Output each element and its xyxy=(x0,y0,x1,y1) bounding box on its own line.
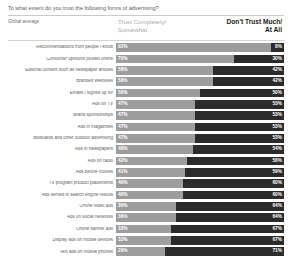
stacked-bar: 40%60% xyxy=(116,191,284,200)
stacked-bar: 50%50% xyxy=(116,89,284,98)
bar-segment-distrust: 53% xyxy=(195,134,284,143)
bar-segment-distrust: 53% xyxy=(195,111,284,120)
stacked-bar: 33%67% xyxy=(116,236,284,245)
bar-value-distrust: 50% xyxy=(272,91,282,96)
table-row: Online banner ads33%67% xyxy=(8,223,284,234)
row-label: Ads on social networks xyxy=(8,215,116,220)
table-row: Online video ads36%64% xyxy=(8,201,284,212)
bar-value-distrust: 60% xyxy=(272,193,282,198)
bar-value-distrust: 53% xyxy=(272,125,282,130)
table-row: Ads on TV47%53% xyxy=(8,99,284,110)
bar-segment-trust: 70% xyxy=(116,55,234,64)
bar-value-trust: 40% xyxy=(118,181,128,186)
stacked-bar: 47%53% xyxy=(116,123,284,132)
bar-value-distrust: 53% xyxy=(272,136,282,141)
bar-value-trust: 70% xyxy=(118,57,128,62)
stacked-bar: 58%42% xyxy=(116,77,284,86)
bar-segment-distrust: 53% xyxy=(195,123,284,132)
bar-value-distrust: 59% xyxy=(272,170,282,175)
table-row: Display ads on mobile devices33%67% xyxy=(8,235,284,246)
row-label: Emails I signed up for xyxy=(8,91,116,96)
bar-segment-trust: 92% xyxy=(116,43,271,52)
bar-segment-trust: 36% xyxy=(116,202,176,211)
subtitle: Global average xyxy=(8,20,39,25)
stacked-bar: 41%59% xyxy=(116,168,284,177)
bar-segment-trust: 40% xyxy=(116,179,183,188)
row-label: Branded Websites xyxy=(8,79,116,84)
bar-value-distrust: 54% xyxy=(272,147,282,152)
stacked-bar: 42%58% xyxy=(116,157,284,166)
bar-value-distrust: 58% xyxy=(272,159,282,164)
stacked-bar: 33%67% xyxy=(116,225,284,234)
trust-in-advertising-chart: To what extent do you trust the followin… xyxy=(0,0,292,256)
bar-value-distrust: 60% xyxy=(272,181,282,186)
stacked-bar: 70%30% xyxy=(116,55,284,64)
stacked-bar: 47%53% xyxy=(116,134,284,143)
table-row: Ads on radio42%58% xyxy=(8,155,284,166)
row-label: Text ads on mobile phones xyxy=(8,250,116,255)
table-row: Ads in newspapers46%54% xyxy=(8,144,284,155)
bar-value-distrust: 42% xyxy=(272,79,282,84)
bar-segment-distrust: 59% xyxy=(185,168,284,177)
bar-segment-trust: 41% xyxy=(116,168,185,177)
bar-segment-distrust: 67% xyxy=(171,225,284,234)
stacked-bar: 40%60% xyxy=(116,179,284,188)
bar-rows: Recommendations from people I know92%8%C… xyxy=(8,42,284,256)
stacked-bar: 36%64% xyxy=(116,202,284,211)
table-row: Branded Websites58%42% xyxy=(8,76,284,87)
bar-segment-trust: 33% xyxy=(116,225,171,234)
bar-value-trust: 47% xyxy=(118,125,128,130)
bar-segment-trust: 42% xyxy=(116,157,187,166)
table-row: Ads on social networks36%64% xyxy=(8,212,284,223)
bar-value-distrust: 53% xyxy=(272,102,282,107)
bar-segment-trust: 58% xyxy=(116,66,213,75)
bar-segment-trust: 36% xyxy=(116,213,176,222)
bar-value-trust: 40% xyxy=(118,193,128,198)
bar-segment-distrust: 58% xyxy=(187,157,284,166)
bar-segment-distrust: 60% xyxy=(183,179,284,188)
bar-value-trust: 36% xyxy=(118,204,128,209)
bar-value-distrust: 67% xyxy=(272,238,282,243)
bar-value-trust: 58% xyxy=(118,68,128,73)
row-label: Display ads on mobile devices xyxy=(8,238,116,243)
column-header-trust: Trust Completely/ Somewhat xyxy=(118,18,166,34)
row-label: Ads on TV xyxy=(8,102,116,107)
bar-value-distrust: 8% xyxy=(275,45,282,50)
row-label: Consumer opinions posted online xyxy=(8,57,116,62)
row-label: Ads on radio xyxy=(8,159,116,164)
stacked-bar: 29%71% xyxy=(116,247,284,256)
row-label: Online video ads xyxy=(8,204,116,209)
bar-value-trust: 29% xyxy=(118,249,128,254)
bar-segment-trust: 47% xyxy=(116,134,195,143)
row-label: Editorial content such as newspaper arti… xyxy=(8,68,116,73)
bar-value-trust: 47% xyxy=(118,113,128,118)
table-row: Editorial content such as newspaper arti… xyxy=(8,65,284,76)
bar-value-trust: 92% xyxy=(118,45,128,50)
table-row: Recommendations from people I know92%8% xyxy=(8,42,284,53)
bar-value-distrust: 67% xyxy=(272,227,282,232)
table-row: TV program product placements40%60% xyxy=(8,178,284,189)
bar-value-trust: 33% xyxy=(118,227,128,232)
column-header-trust-line2: Somewhat xyxy=(118,26,166,34)
bar-segment-distrust: 50% xyxy=(200,89,284,98)
stacked-bar: 36%64% xyxy=(116,213,284,222)
bar-value-distrust: 42% xyxy=(272,68,282,73)
stacked-bar: 58%42% xyxy=(116,66,284,75)
table-row: Consumer opinions posted online70%30% xyxy=(8,53,284,64)
bar-segment-distrust: 64% xyxy=(176,213,284,222)
bar-segment-trust: 47% xyxy=(116,100,195,109)
column-header-distrust-line2: At All xyxy=(227,26,282,34)
bar-segment-trust: 47% xyxy=(116,111,195,120)
bar-value-trust: 41% xyxy=(118,170,128,175)
row-label: TV program product placements xyxy=(8,181,116,186)
bar-segment-distrust: 67% xyxy=(171,236,284,245)
stacked-bar: 47%53% xyxy=(116,100,284,109)
stacked-bar: 47%53% xyxy=(116,111,284,120)
bar-value-trust: 47% xyxy=(118,102,128,107)
column-header-trust-line1: Trust Completely/ xyxy=(118,18,166,26)
row-label: Ads before movies xyxy=(8,170,116,175)
bar-segment-trust: 47% xyxy=(116,123,195,132)
bar-value-distrust: 64% xyxy=(272,215,282,220)
bar-segment-distrust: 30% xyxy=(234,55,284,64)
bar-segment-distrust: 54% xyxy=(193,145,284,154)
